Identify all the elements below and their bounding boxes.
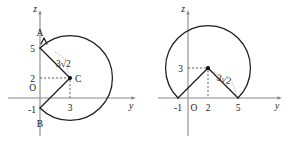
left-figure-panel: z y O A B C 5 2 -1 3 3√2 [0, 0, 144, 143]
right-figure-svg: z y O 3 -1 2 5 3√2 [144, 0, 288, 143]
left-origin-label: O [29, 83, 36, 93]
right-y-axis-label: y [274, 101, 280, 111]
left-z-axis-label: z [32, 4, 37, 14]
left-tick-label-z5: 5 [30, 44, 35, 54]
figure-sheet: z y O A B C 5 2 -1 3 3√2 [0, 0, 288, 143]
right-origin-label: O [191, 103, 198, 113]
left-tick-label-y3: 3 [68, 103, 73, 113]
left-wedge-edge-cb [40, 78, 70, 108]
right-z-axis-label: z [180, 4, 185, 14]
right-tick-label-z3: 3 [178, 64, 183, 74]
right-tick-label-y2: 2 [206, 103, 211, 113]
left-radius-label-group: 3√2 [56, 59, 71, 69]
left-y-axis-label: y [128, 101, 134, 111]
left-point-a-caret [41, 38, 47, 44]
right-z-axis-arrow [186, 10, 189, 15]
left-tick-label-z2: 2 [30, 74, 35, 84]
left-radius-leader-lower [67, 68, 69, 75]
left-point-c-label: C [75, 74, 81, 84]
left-point-b-label: B [37, 119, 43, 129]
right-radius-label: 3√2 [215, 72, 232, 86]
left-figure-svg: z y O A B C 5 2 -1 3 3√2 [0, 0, 144, 143]
right-center-point [206, 66, 210, 70]
left-radius-label: 3√2 [56, 59, 71, 69]
right-figure-panel: z y O 3 -1 2 5 3√2 [144, 0, 288, 143]
right-tick-label-yminus1: -1 [174, 103, 182, 113]
left-center-point-c [68, 76, 72, 80]
right-tick-label-y5: 5 [236, 103, 241, 113]
left-tick-label-zminus1: -1 [28, 105, 36, 115]
left-point-a-label: A [37, 28, 44, 38]
left-z-axis-arrow [38, 10, 41, 15]
right-y-axis-arrow [277, 96, 282, 99]
right-radius-label-group: 3√2 [215, 72, 232, 86]
left-y-axis-arrow [131, 96, 136, 99]
